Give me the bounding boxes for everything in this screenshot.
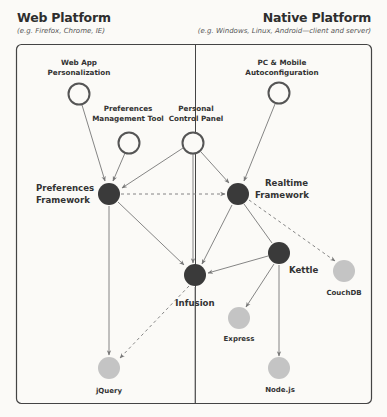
edge-kettle-to-infusion: [208, 256, 268, 273]
edge-realtime-to-kettle: [244, 204, 272, 243]
label-kettle: Kettle: [289, 265, 318, 275]
edge-pcp-to-realtime: [201, 152, 229, 183]
node-express: [228, 307, 250, 329]
node-kettle: [268, 242, 290, 264]
node-preferences-management-tool: [119, 133, 140, 154]
label-pmt-line2: Management Tool: [92, 114, 164, 123]
edge-infusion-to-jquery: [120, 286, 189, 358]
edge-realtime-to-infusion: [202, 205, 232, 264]
label-pmt-line1: Preferences: [104, 104, 153, 113]
label-express: Express: [224, 335, 255, 343]
label-pcp-line1: Personal: [178, 104, 213, 113]
label-prefs-line1: Preferences: [36, 183, 94, 193]
node-jquery: [98, 357, 120, 379]
label-prefs-line2: Framework: [36, 195, 90, 205]
edge-pcmobile-to-realtime: [244, 104, 275, 181]
label-web-app-line2: Personalization: [48, 68, 111, 77]
edge-pmt-to-prefs: [113, 153, 125, 181]
edge-prefs-to-infusion: [118, 202, 184, 265]
label-realtime-line2: Framework: [255, 190, 309, 200]
node-infusion: [184, 264, 206, 286]
label-nodejs: Node.js: [265, 386, 295, 394]
label-pcp-line2: Control Panel: [169, 114, 224, 123]
label-couchdb: CouchDB: [326, 289, 361, 297]
edge-realtime-to-couchdb: [249, 200, 335, 261]
label-infusion: Infusion: [175, 298, 214, 308]
node-realtime-framework: [227, 183, 249, 205]
label-web-app-line1: Web App: [61, 58, 97, 67]
architecture-diagram: Web App Personalization Preferences Mana…: [0, 0, 387, 417]
node-pc-mobile-autoconfiguration: [269, 83, 290, 104]
label-realtime-line1: Realtime: [265, 178, 308, 188]
label-pcmobile-line2: Autoconfiguration: [245, 68, 318, 77]
node-preferences-framework: [98, 183, 120, 205]
label-pcmobile-line1: PC & Mobile: [258, 58, 307, 67]
node-personal-control-panel: [183, 133, 204, 154]
label-jquery: jQuery: [95, 387, 123, 395]
node-nodejs: [268, 357, 290, 379]
node-web-app-personalization: [69, 84, 90, 105]
edge-kettle-to-express: [246, 264, 274, 307]
node-couchdb: [333, 260, 355, 282]
